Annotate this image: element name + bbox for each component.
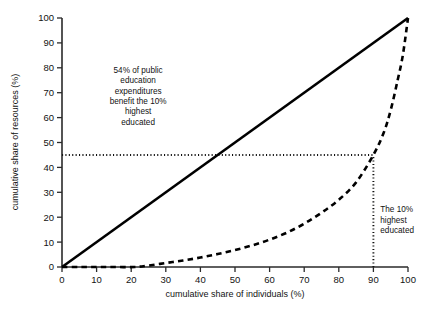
annotation-line: 54% of public xyxy=(114,66,163,75)
y-tick-label: 100 xyxy=(38,12,54,23)
lorenz-curve-chart: 0102030405060708090100 01020304050607080… xyxy=(0,0,426,310)
x-tick-label: 0 xyxy=(59,274,64,285)
annotation-line: highest xyxy=(125,107,152,116)
annotation-line: expenditures xyxy=(115,87,162,96)
annotation-line: educated xyxy=(121,118,155,127)
x-tick-label: 10 xyxy=(91,274,102,285)
y-axis-title: cumulative share of resources (%) xyxy=(10,74,20,211)
x-tick-label: 80 xyxy=(334,274,345,285)
y-tick-label: 60 xyxy=(43,112,54,123)
annotation-line: benefit the 10% xyxy=(110,97,167,106)
annotation-line: The 10% xyxy=(380,205,413,214)
x-tick-label: 70 xyxy=(299,274,310,285)
annotation-line: education xyxy=(120,76,156,85)
y-tick-label: 50 xyxy=(43,137,54,148)
y-tick-label: 80 xyxy=(43,62,54,73)
x-axis-title: cumulative share of individuals (%) xyxy=(165,289,304,299)
chart-page: 0102030405060708090100 01020304050607080… xyxy=(0,0,426,310)
y-tick-label: 40 xyxy=(43,162,54,173)
x-tick-label: 20 xyxy=(126,274,137,285)
y-tick-label: 20 xyxy=(43,212,54,223)
x-tick-label: 100 xyxy=(400,274,416,285)
annotation-line: highest xyxy=(380,216,407,225)
x-tick-label: 90 xyxy=(368,274,379,285)
y-tick-label: 10 xyxy=(43,237,54,248)
annotation-line: educated xyxy=(380,226,414,235)
x-tick-label: 50 xyxy=(230,274,241,285)
y-tick-label: 0 xyxy=(49,261,54,272)
x-tick-label: 60 xyxy=(264,274,275,285)
y-tick-label: 70 xyxy=(43,87,54,98)
y-tick-label: 30 xyxy=(43,187,54,198)
y-tick-label: 90 xyxy=(43,37,54,48)
x-tick-label: 40 xyxy=(195,274,206,285)
x-tick-label: 30 xyxy=(161,274,172,285)
